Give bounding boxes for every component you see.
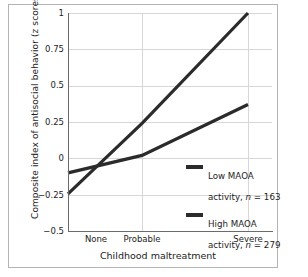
legend-item-low-maoa: Low MAOA activity, n = 163 (186, 160, 282, 202)
x-tick-label-probable: Probable (107, 234, 177, 244)
legend-swatch-icon (186, 165, 203, 169)
legend-line1: High MAOA (208, 219, 257, 229)
legend-prefix: activity, (208, 240, 246, 250)
y-tick-label: −0.25 (24, 190, 64, 200)
y-axis-ticks: 1 0.75 0.5 0.25 0 −0.25 −0.5 (20, 0, 64, 277)
y-tick-label: −0.5 (24, 226, 64, 236)
legend-item-high-maoa: High MAOA activity, n = 279 (186, 208, 282, 250)
y-tick-label: 0.5 (24, 80, 64, 90)
legend-swatch-icon (186, 213, 203, 217)
legend-suffix: = 163 (251, 192, 280, 202)
legend-label-high-maoa: High MAOA activity, n = 279 (208, 208, 282, 250)
y-tick-label: 0.75 (24, 44, 64, 54)
legend-line1: Low MAOA (208, 171, 254, 181)
y-axis-line (68, 13, 69, 232)
figure-container: Composite index of antisocial behavior (… (0, 0, 308, 277)
y-tick-label: 0.25 (24, 117, 64, 127)
legend-suffix: = 279 (251, 240, 280, 250)
y-tick-label: 1 (24, 8, 64, 18)
y-tick-label: 0 (24, 153, 64, 163)
legend-prefix: activity, (208, 192, 246, 202)
legend: Low MAOA activity, n = 163 High MAOA act… (186, 160, 282, 256)
legend-label-low-maoa: Low MAOA activity, n = 163 (208, 160, 282, 202)
